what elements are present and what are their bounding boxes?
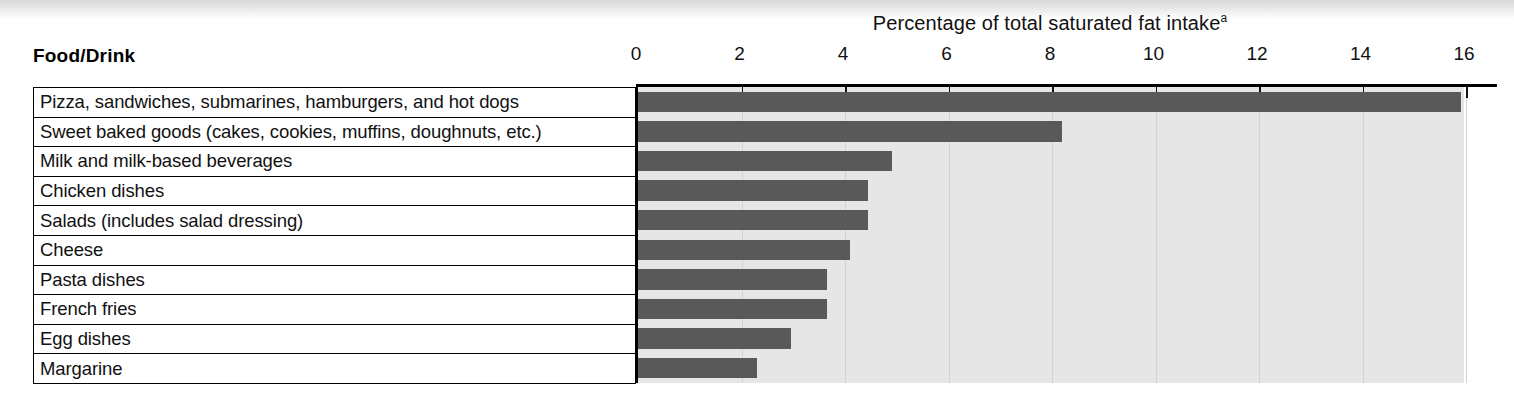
x-tick-label: 14 bbox=[1350, 43, 1371, 65]
category-label-cell: Margarine bbox=[34, 354, 635, 384]
category-label-cell: Salads (includes salad dressing) bbox=[34, 206, 635, 236]
bar-row bbox=[638, 353, 1464, 383]
bar bbox=[638, 92, 1461, 113]
bar-row bbox=[638, 146, 1464, 176]
bar bbox=[638, 121, 1062, 142]
bar-row bbox=[638, 294, 1464, 324]
gridline bbox=[1466, 98, 1467, 383]
figure-container: Percentage of total saturated fat intake… bbox=[0, 0, 1514, 394]
axis-title-text: Percentage of total saturated fat intake bbox=[873, 12, 1221, 34]
bar bbox=[638, 299, 827, 320]
bar-row bbox=[638, 117, 1464, 147]
category-label-cell: Pizza, sandwiches, submarines, hamburger… bbox=[34, 88, 635, 118]
bar-row bbox=[638, 265, 1464, 295]
x-tick-label: 10 bbox=[1143, 43, 1164, 65]
category-label-cell: Cheese bbox=[34, 236, 635, 266]
bar-row bbox=[638, 87, 1464, 117]
bar-row bbox=[638, 324, 1464, 354]
footnote-marker: a bbox=[1220, 11, 1227, 25]
x-tick-label: 8 bbox=[1045, 43, 1056, 65]
bar bbox=[638, 151, 892, 172]
category-label-cell: French fries bbox=[34, 295, 635, 325]
axis-title: Percentage of total saturated fat intake… bbox=[636, 12, 1464, 35]
category-label-cell: Pasta dishes bbox=[34, 266, 635, 296]
bar-row bbox=[638, 205, 1464, 235]
x-tick-label: 2 bbox=[734, 43, 745, 65]
x-tick-label: 16 bbox=[1453, 43, 1474, 65]
category-label-cell: Sweet baked goods (cakes, cookies, muffi… bbox=[34, 118, 635, 148]
category-label-table: Pizza, sandwiches, submarines, hamburger… bbox=[33, 87, 636, 384]
x-axis-tick-labels: 0246810121416 bbox=[0, 43, 1514, 69]
x-tick-label: 12 bbox=[1246, 43, 1267, 65]
bar bbox=[638, 240, 850, 261]
plot-area bbox=[636, 87, 1464, 383]
x-axis-line bbox=[636, 84, 1497, 87]
x-tick-label: 4 bbox=[838, 43, 849, 65]
category-label-cell: Egg dishes bbox=[34, 325, 635, 355]
bar bbox=[638, 210, 868, 231]
bar bbox=[638, 180, 868, 201]
bar-row bbox=[638, 235, 1464, 265]
category-label-cell: Chicken dishes bbox=[34, 177, 635, 207]
bar-row bbox=[638, 176, 1464, 206]
bar bbox=[638, 328, 791, 349]
x-tick-mark bbox=[1466, 87, 1468, 98]
x-tick-label: 0 bbox=[631, 43, 642, 65]
bar bbox=[638, 269, 827, 290]
category-label-cell: Milk and milk-based beverages bbox=[34, 147, 635, 177]
bar bbox=[638, 358, 757, 379]
x-tick-label: 6 bbox=[941, 43, 952, 65]
